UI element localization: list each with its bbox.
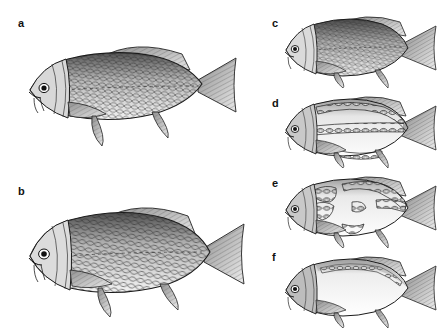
fish-illustration-b [22, 192, 254, 317]
panel-c: c [258, 0, 446, 88]
panel-label-e: e [272, 178, 278, 189]
figure-plate: a [0, 0, 446, 332]
fish-illustration-a [22, 28, 248, 146]
panel-b: b [0, 166, 258, 332]
panel-d: d [258, 88, 446, 168]
panel-e: e [258, 168, 446, 248]
fish-illustration-f [280, 248, 442, 328]
fish-illustration-d [280, 90, 442, 168]
panel-label-d: d [272, 98, 279, 109]
panel-label-c: c [272, 18, 278, 29]
panel-f: f [258, 248, 446, 332]
fish-illustration-e [280, 170, 442, 248]
fish-illustration-c [280, 8, 442, 88]
panel-label-f: f [272, 252, 276, 263]
panel-a: a [0, 0, 258, 166]
